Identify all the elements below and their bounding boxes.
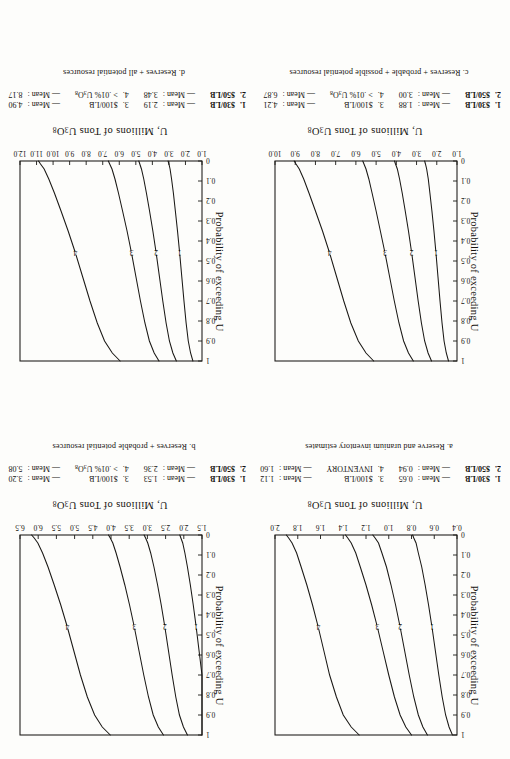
svg-text:0.8: 0.8	[461, 316, 471, 325]
svg-text:0.1: 0.1	[461, 176, 471, 185]
svg-text:1: 1	[434, 248, 438, 257]
svg-text:1.4: 1.4	[338, 523, 348, 532]
svg-text:0.8: 0.8	[461, 690, 471, 699]
svg-text:0.4: 0.4	[206, 610, 216, 619]
svg-text:3: 3	[383, 248, 387, 257]
legend-mean-word-2: — Mean :	[22, 99, 69, 109]
svg-text:4: 4	[316, 622, 320, 631]
scanned-figure-page: Probability of exceeding U 0.40.60.81.01…	[0, 0, 510, 759]
svg-text:0.9: 0.9	[461, 336, 471, 345]
legend-d: 1. $30/LB — Mean : 2.19 3. $100/LB — Mea…	[2, 88, 246, 109]
chart-a: 0.40.60.81.01.21.41.61.82.010.90.80.70.6…	[267, 513, 479, 745]
legend-key-2: 3.	[118, 473, 139, 483]
svg-text:5.0: 5.0	[70, 523, 80, 532]
svg-text:2: 2	[410, 248, 414, 257]
legend-mean-value-2: 8.17	[3, 88, 22, 99]
svg-text:1: 1	[206, 730, 210, 739]
svg-text:0.9: 0.9	[206, 710, 216, 719]
legend-row: 1. $30/LB — Mean : 2.19 3. $100/LB — Mea…	[3, 99, 246, 109]
legend-label: $30/LB	[460, 473, 490, 483]
legend-key-2: 4.	[118, 462, 139, 473]
legend-mean-value: 0.94	[394, 463, 413, 473]
svg-text:6.0: 6.0	[33, 523, 43, 532]
svg-text:0.5: 0.5	[206, 256, 216, 265]
svg-text:6.0: 6.0	[351, 149, 361, 158]
legend-key: 1.	[490, 99, 501, 109]
plot-area-d: Probability of exceeding U 1.02.03.04.05…	[2, 121, 252, 373]
svg-text:3: 3	[129, 248, 133, 257]
svg-text:2.0: 2.0	[181, 149, 191, 158]
chart-d: 1.02.03.04.05.06.07.08.09.010.011.012.01…	[12, 139, 224, 371]
legend-mean-value: 1.53	[139, 473, 158, 483]
svg-text:2.5: 2.5	[161, 523, 171, 532]
svg-text:0.1: 0.1	[206, 176, 216, 185]
figure-caption-a: a. Reserve and uranium inventory estimat…	[257, 442, 501, 451]
legend-mean-word-2: — Mean :	[274, 473, 321, 483]
svg-text:0: 0	[206, 530, 210, 539]
svg-text:0.1: 0.1	[461, 550, 471, 559]
svg-text:1: 1	[206, 356, 210, 365]
legend-c: 1. $30/LB — Mean : 1.88 3. $100/LB — Mea…	[257, 88, 501, 109]
legend-row: 2. $50/LB — Mean : 3.00 4. > .01% U3O8 —…	[258, 88, 501, 99]
figure-caption-c: c. Reserves + probable + possible potent…	[257, 68, 501, 77]
svg-text:5.0: 5.0	[131, 149, 141, 158]
svg-text:0.8: 0.8	[407, 523, 417, 532]
legend-mean-value: 0.65	[394, 473, 413, 483]
legend-mean-word: — Mean :	[413, 88, 460, 99]
legend-key: 2.	[490, 463, 501, 473]
legend-mean-value-2: 4.21	[258, 99, 277, 109]
x-axis-label-c: U, Millions of Tons U3O8	[267, 125, 463, 137]
legend-row: 1. $30/LB — Mean : 1.53 3. $100/LB — Mea…	[3, 473, 246, 483]
legend-label: $50/LB	[460, 463, 490, 473]
legend-label-2: $100/LB	[322, 473, 373, 483]
legend-mean-word: — Mean :	[158, 99, 205, 109]
svg-text:10.0: 10.0	[46, 149, 59, 158]
legend-key-2: 3.	[118, 99, 139, 109]
figure-a: Probability of exceeding U 0.40.60.81.01…	[257, 379, 507, 751]
legend-mean-value-2: 6.87	[258, 88, 277, 99]
legend-key: 2.	[490, 88, 501, 99]
legend-label-2: > .01% U3O8	[70, 462, 118, 473]
svg-text:7.0: 7.0	[98, 149, 108, 158]
legend-a: 1. $30/LB — Mean : 0.65 3. $100/LB — Mea…	[257, 463, 501, 483]
svg-text:0.6: 0.6	[429, 523, 439, 532]
svg-text:5.0: 5.0	[371, 149, 381, 158]
legend-mean-word: — Mean :	[158, 473, 205, 483]
legend-row: 2. $50/LB — Mean : 0.94 4. INVENTORY — M…	[255, 463, 501, 473]
svg-text:10.0: 10.0	[268, 149, 281, 158]
svg-text:0.2: 0.2	[206, 570, 216, 579]
legend-mean-word-2: — Mean :	[22, 88, 69, 99]
svg-text:0.7: 0.7	[206, 296, 216, 305]
legend-mean-word: — Mean :	[413, 99, 460, 109]
legend-mean-word-2: — Mean :	[22, 473, 69, 483]
svg-text:0.7: 0.7	[206, 670, 216, 679]
svg-text:0.7: 0.7	[461, 296, 471, 305]
legend-mean-value: 3.00	[394, 88, 413, 99]
svg-text:1.6: 1.6	[316, 523, 326, 532]
svg-text:4.0: 4.0	[147, 149, 157, 158]
plot-area-c: Probability of exceeding U 1.02.03.04.05…	[257, 121, 507, 373]
legend-mean-value-2: 1.60	[255, 463, 274, 473]
legend-label-2: $100/LB	[325, 99, 373, 109]
svg-text:4.0: 4.0	[391, 149, 401, 158]
legend-mean-word-2: — Mean :	[274, 463, 321, 473]
legend-key-2: 3.	[373, 99, 394, 109]
svg-text:4: 4	[65, 622, 69, 631]
plot-area-b: Probability of exceeding U 1.52.02.53.03…	[2, 495, 252, 747]
svg-text:0.3: 0.3	[206, 216, 216, 225]
svg-text:0.2: 0.2	[461, 570, 471, 579]
chart-c: 1.02.03.04.05.06.07.08.09.010.010.90.80.…	[267, 139, 479, 371]
x-axis-label-a: U, Millions of Tons U3O8	[267, 499, 463, 511]
legend-label-2: $100/LB	[70, 473, 118, 483]
legend-row: 1. $30/LB — Mean : 0.65 3. $100/LB — Mea…	[255, 473, 501, 483]
figure-b: Probability of exceeding U 1.52.02.53.03…	[2, 379, 252, 751]
svg-text:0.3: 0.3	[461, 590, 471, 599]
figure-c: Probability of exceeding U 1.02.03.04.05…	[257, 5, 507, 377]
legend-mean-word: — Mean :	[413, 463, 460, 473]
legend-label-2: INVENTORY	[322, 463, 373, 473]
svg-text:0.4: 0.4	[461, 610, 471, 619]
svg-text:3: 3	[375, 622, 379, 631]
svg-text:11.0: 11.0	[30, 149, 43, 158]
legend-row: 2. $50/LB — Mean : 2.36 4. > .01% U3O8 —…	[3, 462, 246, 473]
svg-text:9.0: 9.0	[290, 149, 300, 158]
